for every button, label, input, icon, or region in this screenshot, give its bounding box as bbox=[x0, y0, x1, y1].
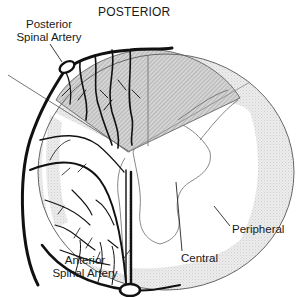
label-central: Central bbox=[181, 252, 218, 265]
anterior-artery-line2: Spinal Artery bbox=[48, 267, 122, 280]
label-anterior-spinal-artery: Anterior Spinal Artery bbox=[48, 254, 122, 280]
anterior-artery-line1: Anterior bbox=[48, 254, 122, 267]
anterior-spinal-artery-vessel bbox=[120, 284, 140, 296]
posterior-artery-line1: Posterior bbox=[8, 18, 90, 31]
label-posterior-spinal-artery: Posterior Spinal Artery bbox=[8, 18, 90, 44]
posterior-artery-line2: Spinal Artery bbox=[8, 31, 90, 44]
spinal-cord-diagram bbox=[0, 0, 296, 297]
posterior-artery-leader bbox=[50, 44, 62, 62]
posterior-spinal-artery-vessel bbox=[58, 59, 77, 76]
label-peripheral: Peripheral bbox=[232, 223, 284, 236]
title-posterior: POSTERIOR bbox=[98, 6, 170, 19]
